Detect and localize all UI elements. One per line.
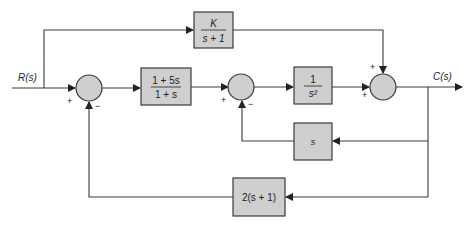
outer-feedback-label: 2(s + 1)	[242, 192, 276, 203]
plant-denominator: s²	[309, 88, 318, 99]
output-label: C(s)	[433, 71, 452, 82]
controller-denominator: 1 + s	[155, 89, 177, 100]
feedforward-denominator: s + 1	[203, 33, 225, 44]
summing-junction-1	[76, 75, 102, 101]
sum3-top-plus-sign: +	[370, 62, 375, 72]
controller-numerator: 1 + 5s	[152, 75, 180, 86]
summing-junction-3	[370, 74, 396, 100]
sum2-minus-sign: −	[248, 99, 253, 109]
inner-feedback-label: s	[311, 137, 316, 147]
summing-junction-2	[228, 74, 254, 100]
sum3-left-plus-sign: +	[362, 90, 367, 100]
input-label: R(s)	[18, 72, 37, 83]
outer-feedback-out-line	[89, 102, 233, 197]
block-diagram: K s + 1 1 + 5s 1 + s 1 s² s 2(s + 1) R(s…	[0, 0, 470, 226]
sum1-minus-sign: −	[95, 101, 100, 111]
sum2-plus-sign: +	[221, 95, 226, 105]
sum1-plus-sign: +	[67, 96, 72, 106]
plant-numerator: 1	[310, 74, 316, 85]
